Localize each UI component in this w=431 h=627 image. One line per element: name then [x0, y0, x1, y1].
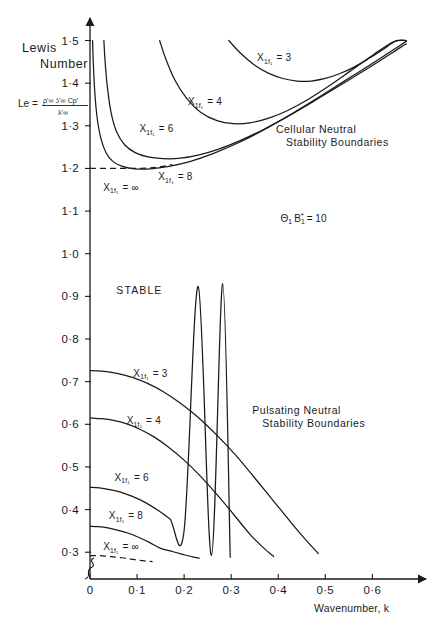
x-axis-tick-label: 0 [87, 584, 94, 596]
annotations-layer: STABLEΘ1B*1= 10Cellular NeutralStability… [116, 123, 388, 428]
y-axis-tick-label: 1·5 [61, 35, 79, 47]
curve-label-cellular-Xf-3: X1f₁ = 3 [257, 52, 291, 65]
curve-label-cellular-Xf-4: X1f₁ = 4 [188, 96, 222, 109]
curve-labels-layer: X1f₁ = 3X1f₁ = 4X1f₁ = 6X1f₁ = 8X1f₁ = ∞… [103, 52, 291, 554]
pulsating-boundaries-label: Pulsating NeutralStability Boundaries [252, 404, 365, 429]
x-axis-tick-label: 0·3 [222, 584, 240, 596]
y-axis-tick-label: 0·3 [61, 546, 79, 558]
curves-layer [90, 40, 406, 561]
neutral-stability-chart: 0·30·40·50·60·70·80·91·01·11·21·31·41·50… [0, 0, 431, 627]
parameter-annotation: Θ1B*1= 10 [281, 211, 327, 225]
curve-label-pulsating-Xf-inf: X1f₁ = ∞ [103, 541, 139, 554]
curve-label-pulsating-Xf-6: X1f₁ = 6 [114, 472, 148, 485]
lewis-label: Lewis [22, 41, 57, 55]
y-axis-tick-label: 1·0 [61, 248, 79, 260]
stable-region-label: STABLE [116, 284, 162, 296]
y-axis-tick-label: 1·4 [61, 77, 79, 89]
y-axis-tick-label: 0·8 [61, 333, 79, 345]
x-axis-tick-label: 0·6 [364, 584, 382, 596]
lewis-formula-denominator: λ'∞ [58, 108, 68, 117]
x-axis-tick-label: 0·5 [317, 584, 335, 596]
curve-label-pulsating-Xf-8: X1f₁ = 8 [109, 510, 143, 523]
x-axis-title: Wavenumber, k [314, 602, 390, 614]
curve-pulsating-Xf-inf [90, 556, 153, 562]
y-axis-tick-label: 0·7 [61, 376, 79, 388]
axes-layer [85, 18, 426, 579]
number-label: Number [40, 57, 88, 71]
y-axis-tick-label: 1·3 [61, 120, 79, 132]
curve-label-pulsating-Xf-3: X1f₁ = 3 [133, 368, 167, 381]
curve-cellular-Xf-8 [93, 41, 407, 170]
curve-label-cellular-Xf-8: X1f₁ = 8 [158, 171, 192, 184]
y-axis-tick-label: 0·5 [61, 461, 79, 473]
x-axis-tick-label: 0·2 [175, 584, 193, 596]
curve-pulsating-Xf-4 [90, 418, 274, 557]
cellular-boundaries-label: Cellular NeutralStability Boundaries [276, 123, 389, 148]
curve-label-cellular-Xf-inf: X1f₁ = ∞ [103, 182, 139, 195]
y-axis-tick-label: 0·9 [61, 290, 79, 302]
x-axis-tick-label: 0·1 [128, 584, 146, 596]
x-axis-tick-label: 0·4 [269, 584, 287, 596]
lewis-formula-numerator: ρ'∞ ʖ'∞ Cp' [43, 96, 79, 105]
curve-label-cellular-Xf-6: X1f₁ = 6 [139, 123, 173, 136]
lewis-formula-lhs: Le = [18, 98, 38, 109]
y-axis-tick-label: 1·1 [61, 205, 79, 217]
y-axis-tick-label: 0·4 [61, 504, 79, 516]
y-axis-tick-label: 0·6 [61, 418, 79, 430]
y-axis-tick-label: 1·2 [61, 162, 79, 174]
curve-label-pulsating-Xf-4: X1f₁ = 4 [127, 415, 161, 428]
figure-container: 0·30·40·50·60·70·80·91·01·11·21·31·41·50… [0, 0, 431, 627]
